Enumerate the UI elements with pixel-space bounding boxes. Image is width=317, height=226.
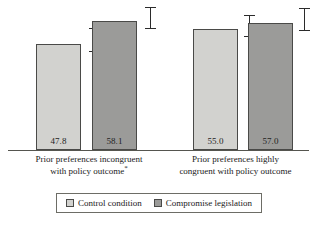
- significance-asterisk: *: [124, 164, 128, 172]
- error-bar-stem: [150, 7, 151, 29]
- bar-value-label: 58.1: [93, 136, 136, 146]
- bar-compromise-congruent[interactable]: 57.0: [248, 23, 293, 150]
- category-label-line2: congruent with policy outcome: [158, 165, 313, 177]
- legend-swatch-icon: [66, 199, 74, 207]
- error-bar-stem: [304, 8, 305, 31]
- bar-compromise-incongruent[interactable]: 58.1: [92, 21, 137, 150]
- bar-group-incongruent: 47.8 58.1: [36, 6, 142, 150]
- bar-control-incongruent[interactable]: 47.8: [36, 44, 81, 150]
- error-bar-cap-top: [145, 7, 156, 8]
- legend-item-label: Control condition: [78, 198, 142, 209]
- error-bar-cap-top: [244, 15, 255, 16]
- category-label-line1: Prior preferences highly: [158, 153, 313, 165]
- bar-control-congruent[interactable]: 55.0: [193, 29, 238, 150]
- category-label-incongruent: Prior preferences incongruent with polic…: [10, 153, 168, 177]
- category-label-line1: Prior preferences incongruent: [10, 153, 168, 165]
- chart-legend: Control condition Compromise legislation: [56, 193, 262, 213]
- plot-area: 47.8 58.1 55.0: [0, 6, 317, 150]
- error-bar-cap-bottom: [299, 30, 310, 31]
- category-label-line2: with policy outcome*: [10, 165, 168, 177]
- error-bar-compromise-incongruent: [145, 7, 156, 29]
- legend-item-compromise-legislation[interactable]: Compromise legislation: [154, 198, 252, 209]
- bar-chart: 47.8 58.1 55.0: [0, 0, 317, 226]
- error-bar-compromise-congruent: [299, 8, 310, 31]
- error-bar-cap-top: [299, 8, 310, 9]
- bar-value-label: 57.0: [249, 136, 292, 146]
- bar-value-label: 47.8: [37, 136, 80, 146]
- x-axis-line: [8, 150, 309, 151]
- category-label-line2-text: with policy outcome: [50, 166, 124, 176]
- bar-value-label: 55.0: [194, 136, 237, 146]
- legend-item-control-condition[interactable]: Control condition: [66, 198, 142, 209]
- legend-swatch-icon: [154, 199, 162, 207]
- bar-group-congruent: 55.0 57.0: [193, 6, 297, 150]
- category-label-congruent: Prior preferences highly congruent with …: [158, 153, 313, 177]
- legend-item-label: Compromise legislation: [166, 198, 252, 209]
- error-bar-cap-bottom: [145, 28, 156, 29]
- category-labels: Prior preferences incongruent with polic…: [0, 153, 317, 185]
